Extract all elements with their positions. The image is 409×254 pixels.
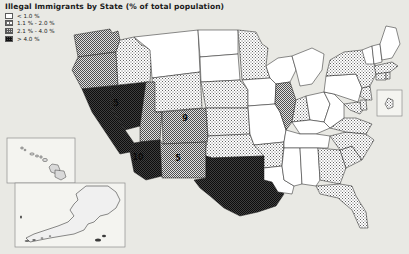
state-SD[interactable] xyxy=(200,54,240,82)
state-KS[interactable] xyxy=(206,108,250,136)
legend-swatch-gt-4 xyxy=(5,36,13,42)
state-MA[interactable] xyxy=(374,62,398,74)
map-figure: 5 9 10 5 Illegal Immigrants by State (% … xyxy=(0,0,409,254)
state-NE[interactable] xyxy=(201,80,248,108)
legend-label-gt-4: > 4.0 % xyxy=(17,36,39,42)
state-MS[interactable] xyxy=(282,148,302,186)
legend-swatch-1-2 xyxy=(5,20,13,26)
us-choropleth-map: 5 9 10 5 xyxy=(0,0,409,254)
state-value-label-nv: 5 xyxy=(113,99,119,108)
legend-item-2-4[interactable]: 2.1 % - 4.0 % xyxy=(5,27,55,35)
state-ME[interactable] xyxy=(380,26,400,60)
legend-label-lt-1: < 1.0 % xyxy=(17,13,39,19)
legend-item-lt-1[interactable]: < 1.0 % xyxy=(5,12,55,20)
legend-label-2-4: 2.1 % - 4.0 % xyxy=(17,28,55,34)
state-WY[interactable] xyxy=(152,72,202,112)
state-MI[interactable] xyxy=(292,48,324,86)
state-RI[interactable] xyxy=(386,72,390,79)
chart-title: Illegal Immigrants by State (% of total … xyxy=(5,2,224,11)
state-DE[interactable] xyxy=(360,100,367,110)
legend: < 1.0 % 1.1 % - 2.0 % 2.1 % - 4.0 % > 4.… xyxy=(5,12,55,42)
legend-swatch-2-4 xyxy=(5,28,13,34)
state-NM[interactable] xyxy=(160,140,206,178)
state-value-label-az: 10 xyxy=(132,153,144,162)
state-OR[interactable] xyxy=(72,52,118,89)
state-FL[interactable] xyxy=(316,184,368,228)
state-value-label-co: 9 xyxy=(182,114,188,123)
legend-label-1-2: 1.1 % - 2.0 % xyxy=(17,20,55,26)
state-MN[interactable] xyxy=(238,30,270,80)
legend-item-gt-4[interactable]: > 4.0 % xyxy=(5,35,55,43)
legend-item-1-2[interactable]: 1.1 % - 2.0 % xyxy=(5,20,55,28)
legend-swatch-lt-1 xyxy=(5,13,13,19)
state-value-label-nm: 5 xyxy=(175,154,181,163)
state-ND[interactable] xyxy=(198,30,238,57)
state-AL[interactable] xyxy=(300,148,320,186)
